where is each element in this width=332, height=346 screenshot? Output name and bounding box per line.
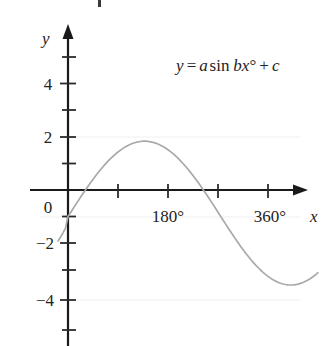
x-axis-label: x bbox=[309, 207, 318, 226]
origin-label: 0 bbox=[44, 198, 53, 217]
equation-plus: + bbox=[256, 56, 272, 75]
y-axis-label: y bbox=[40, 29, 50, 48]
x-axis-arrowhead bbox=[293, 185, 308, 196]
x-tick-label-360: 360° bbox=[254, 207, 286, 226]
y-tick-label-2: 2 bbox=[44, 128, 53, 147]
y-tick-label-minus-2: −2 bbox=[36, 234, 54, 253]
y-axis-arrowhead bbox=[63, 24, 74, 39]
equation-frequency-symbol: b bbox=[233, 56, 242, 75]
equation-offset-symbol: c bbox=[272, 56, 280, 75]
equation-annotation: y=a sin bx°+c bbox=[176, 56, 280, 76]
sine-graph-figure: y x 4 2 0 −2 −4 180° 360° y=a sin bx°+c bbox=[0, 0, 332, 346]
equation-lhs: y bbox=[176, 56, 184, 75]
y-tick-label-minus-4: −4 bbox=[36, 291, 55, 310]
equation-equals: = bbox=[184, 56, 200, 75]
y-tick-label-4: 4 bbox=[44, 75, 53, 94]
x-tick-label-180: 180° bbox=[152, 207, 184, 226]
equation-amplitude-symbol: a bbox=[199, 56, 208, 75]
plot-area: y x 4 2 0 −2 −4 180° 360° bbox=[0, 0, 332, 346]
equation-function-name: sin bbox=[209, 56, 229, 75]
